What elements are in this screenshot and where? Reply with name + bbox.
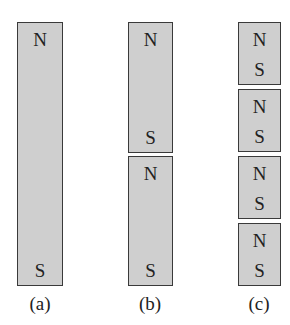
south-pole-label: S [239,127,280,146]
magnet-c-1: N S [238,22,281,85]
north-pole-label: N [239,97,280,116]
panel-a-caption: (a) [10,293,70,315]
south-pole-label: S [129,261,172,280]
panel-c-caption: (c) [229,293,289,315]
magnet-b-1: N S [128,22,173,153]
north-pole-label: N [129,30,172,49]
south-pole-label: S [239,60,280,79]
south-pole-label: S [129,128,172,147]
north-pole-label: N [239,164,280,183]
south-pole-label: S [239,261,280,280]
panel-b-caption: (b) [120,293,180,315]
magnet-b-2: N S [128,156,173,286]
north-pole-label: N [239,30,280,49]
south-pole-label: S [239,194,280,213]
north-pole-label: N [129,164,172,183]
magnet-c-2: N S [238,89,281,152]
magnet-c-3: N S [238,156,281,219]
magnet-a-1: N S [17,22,63,286]
south-pole-label: S [18,261,62,280]
magnet-c-4: N S [238,223,281,286]
north-pole-label: N [239,231,280,250]
north-pole-label: N [18,30,62,49]
